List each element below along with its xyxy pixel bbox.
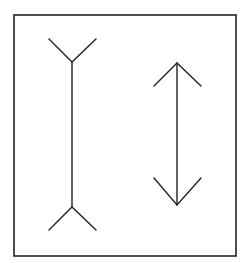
frame-border: [14, 15, 236, 256]
left-top-fins: [49, 39, 96, 62]
left-bottom-fins: [49, 207, 96, 230]
muller-lyer-diagram: [0, 0, 250, 263]
fins-outward-figure: [49, 39, 96, 230]
arrowheads-inward-figure: [154, 63, 201, 205]
